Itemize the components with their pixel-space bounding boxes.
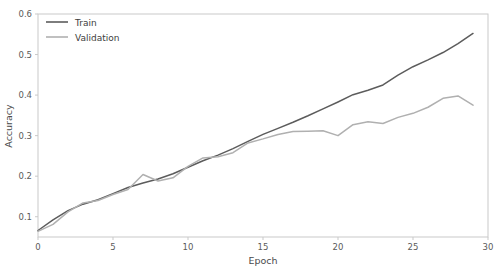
y-tick-labels: 0.10.20.30.40.50.6 [18, 9, 32, 222]
y-tick-label: 0.4 [18, 90, 32, 100]
axes-spines [38, 14, 488, 237]
x-tick-label: 20 [333, 242, 344, 252]
legend-label-validation: Validation [75, 33, 119, 43]
data-series-group [38, 33, 473, 231]
x-tick-label: 30 [483, 242, 494, 252]
chart-legend: TrainValidation [46, 18, 119, 43]
x-tick-labels: 051015202530 [35, 242, 493, 252]
x-tick-label: 25 [408, 242, 419, 252]
series-line-validation [38, 96, 473, 231]
x-tick-label: 0 [35, 242, 40, 252]
y-axis-label: Accuracy [3, 104, 14, 148]
y-tick-label: 0.6 [18, 9, 32, 19]
x-tick-label: 10 [183, 242, 194, 252]
series-line-train [38, 33, 473, 230]
y-tick-label: 0.5 [18, 50, 32, 60]
y-tick-label: 0.3 [18, 131, 32, 141]
chart-figure: 051015202530 0.10.20.30.40.50.6 Epoch Ac… [0, 0, 502, 270]
x-axis-label: Epoch [248, 255, 277, 266]
tick-marks [35, 14, 488, 240]
x-tick-label: 5 [110, 242, 115, 252]
y-tick-label: 0.2 [18, 171, 32, 181]
y-tick-label: 0.1 [18, 212, 32, 222]
x-tick-label: 15 [258, 242, 269, 252]
legend-label-train: Train [74, 18, 97, 28]
line-chart: 051015202530 0.10.20.30.40.50.6 Epoch Ac… [0, 0, 502, 270]
